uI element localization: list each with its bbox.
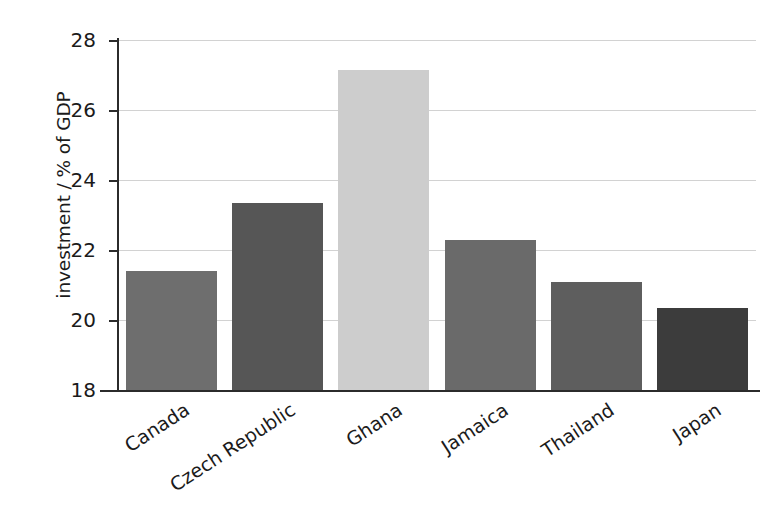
y-tick-mark-26 [109, 110, 118, 112]
gridline-28 [118, 40, 756, 41]
bar-japan[interactable] [657, 308, 748, 390]
y-tick-label-22: 22 [10, 240, 110, 260]
y-axis-tick-labels: 182022242628 [0, 0, 110, 526]
x-tick-label-canada: Canada [122, 400, 193, 455]
x-axis-line [100, 390, 760, 392]
y-tick-label-20: 20 [10, 310, 110, 330]
y-tick-mark-28 [109, 40, 118, 42]
x-tick-label-ghana: Ghana [343, 400, 405, 450]
gridline-26 [118, 110, 756, 111]
y-tick-label-24: 24 [10, 170, 110, 190]
plot-area [118, 40, 756, 390]
bar-thailand[interactable] [551, 282, 642, 391]
y-tick-mark-24 [109, 180, 118, 182]
bar-jamaica[interactable] [445, 240, 536, 391]
bar-chart: investment / % of GDP 182022242628 Canad… [0, 0, 778, 526]
y-tick-label-26: 26 [10, 100, 110, 120]
gridline-22 [118, 250, 756, 251]
gridline-24 [118, 180, 756, 181]
y-tick-mark-20 [109, 320, 118, 322]
y-tick-mark-18 [109, 390, 118, 392]
y-tick-label-18: 18 [10, 380, 110, 400]
y-axis-line [117, 38, 119, 392]
bar-canada[interactable] [126, 271, 217, 390]
x-tick-label-thailand: Thailand [539, 400, 618, 461]
bar-ghana[interactable] [338, 70, 429, 390]
y-tick-label-28: 28 [10, 30, 110, 50]
x-tick-label-jamaica: Jamaica [438, 400, 511, 457]
x-tick-label-japan: Japan [669, 400, 724, 445]
y-tick-mark-22 [109, 250, 118, 252]
bar-czech-republic[interactable] [232, 203, 323, 390]
